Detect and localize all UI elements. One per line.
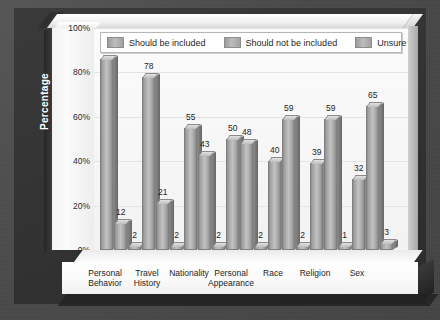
bar-value-label: 12 [116,207,125,217]
bar-group: 40592 [268,25,309,250]
y-axis-block: 0%20%40%60%80%100% [52,28,94,250]
y-axis-tick-label: 80% [54,67,90,77]
x-axis-labels: PersonalBehaviorTravelHistoryNationality… [78,265,418,293]
bar-value-label: 59 [284,103,293,113]
bar-chart: 0%20%40%60%80%100% Percentage 8612278212… [22,12,422,294]
plot-wall-right-edge [408,26,418,252]
bar[interactable]: 59 [282,119,295,250]
legend-item-unsure[interactable]: Unsure [355,37,406,48]
bar-body [324,119,337,250]
legend-item-should-be-included[interactable]: Should be included [107,37,206,48]
bar[interactable]: 86 [100,59,113,250]
bar[interactable]: 32 [352,179,365,250]
bar-value-label: 50 [228,123,237,133]
bar-body [268,161,281,250]
bar-body [156,203,169,250]
bar-group: 55432 [184,25,225,250]
x-axis-label-line: History [116,278,178,288]
bar-body [352,179,365,250]
bar-body [198,155,211,250]
bar-group: 32653 [352,25,393,250]
bar[interactable]: 48 [240,143,253,250]
bar[interactable]: 21 [156,203,169,250]
chart-legend: Should be included Should not be include… [100,32,402,53]
bar[interactable]: 43 [198,155,211,250]
legend-label: Unsure [377,38,406,48]
bar-body [142,77,155,250]
legend-label: Should not be included [246,38,338,48]
y-axis-tick-label: 100% [54,23,90,33]
y-axis-title: Percentage [39,73,50,130]
y-axis-tick-label: 40% [54,156,90,166]
bar-body [240,143,253,250]
legend-label: Should be included [129,38,206,48]
bar[interactable]: 78 [142,77,155,250]
bar-body [380,243,393,250]
bar-group: 50482 [226,25,267,250]
bar-value-label: 43 [200,139,209,149]
bar-body [366,106,379,250]
legend-item-should-not-be-included[interactable]: Should not be included [224,37,338,48]
bar-group: 78212 [142,25,183,250]
legend-swatch-icon [224,37,241,48]
bar-value-label: 59 [326,103,335,113]
bar-body [282,119,295,250]
bar-group: 39591 [310,25,351,250]
floor-drop-shadow [58,294,439,306]
bar-value-label: 39 [312,147,321,157]
bar-value-label: 65 [368,90,377,100]
bar-value-label: 2 [300,230,305,240]
bar[interactable]: 59 [324,119,337,250]
bar-value-label: 2 [132,230,137,240]
bar-value-label: 2 [174,230,179,240]
x-axis-label: Sex [326,268,388,278]
x-axis-label-line: Appearance [200,278,262,288]
legend-swatch-icon [355,37,372,48]
bar-value-label: 78 [144,61,153,71]
bar[interactable]: 40 [268,161,281,250]
bar-value-label: 32 [354,163,363,173]
bar-value-label: 21 [158,187,167,197]
bar[interactable]: 50 [226,139,239,250]
y-axis-tick-label: 60% [54,112,90,122]
x-axis-label-line: Sex [326,268,388,278]
bar-body [310,163,323,250]
bar[interactable]: 3 [380,243,393,250]
bar-body [114,223,127,250]
bar-value-label: 3 [384,227,389,237]
legend-swatch-icon [107,37,124,48]
bar-value-label: 2 [258,230,263,240]
bar[interactable]: 39 [310,163,323,250]
bars-layer: 86122782125543250482405923959132653 [94,28,408,263]
bar[interactable]: 65 [366,106,379,250]
bar-value-label: 2 [216,230,221,240]
bar[interactable]: 55 [184,128,197,250]
bar[interactable]: 12 [114,223,127,250]
bar-value-label: 1 [342,230,347,240]
bar-value-label: 48 [242,127,251,137]
bar-group: 86122 [100,25,141,250]
bar-value-label: 55 [186,112,195,122]
bar-body [184,128,197,250]
y-axis-tick-label: 20% [54,201,90,211]
bar-value-label: 40 [270,145,279,155]
bar-body [100,59,113,250]
bar-body [226,139,239,250]
